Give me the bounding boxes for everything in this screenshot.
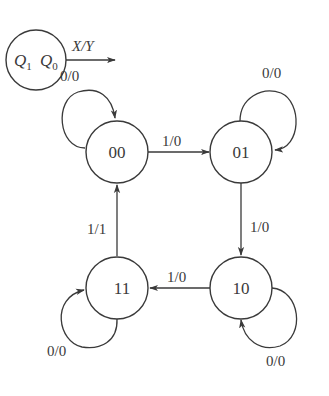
transition-label-00-01: 1/0 (162, 133, 181, 149)
legend-io-label: X/Y (71, 38, 95, 54)
state-00: 00 (86, 121, 148, 183)
state-01: 01 (210, 121, 272, 183)
state-label-11: 11 (114, 279, 130, 298)
transition-label-10-10: 0/0 (266, 353, 285, 369)
transition-label-01-10: 1/0 (250, 219, 269, 235)
state-label-01: 01 (233, 143, 250, 162)
state-10: 10 (210, 257, 272, 319)
transition-label-10-11: 1/0 (167, 269, 186, 285)
transition-label-00-00: 0/0 (60, 68, 79, 84)
state-label-00: 00 (109, 143, 126, 162)
transition-label-11-00: 1/1 (87, 221, 106, 237)
transition-label-01-01: 0/0 (262, 65, 281, 81)
transition-label-11-11: 0/0 (47, 343, 66, 359)
state-label-10: 10 (233, 279, 250, 298)
state-11: 11 (86, 257, 148, 319)
state-diagram: Q1 Q0 X/Y 0/0 1/0 0/0 1/0 1/0 0/0 0/0 1/… (0, 0, 329, 396)
